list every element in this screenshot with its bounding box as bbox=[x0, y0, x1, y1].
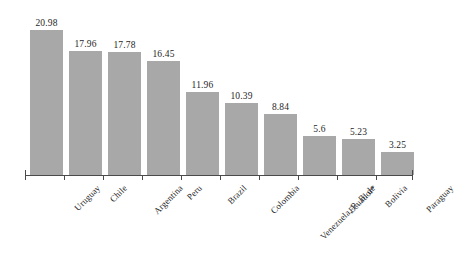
bar[interactable] bbox=[147, 61, 180, 175]
bar-value-label: 17.96 bbox=[69, 39, 102, 50]
bar-value-label: 16.45 bbox=[147, 49, 180, 60]
bar-group: 11.96 bbox=[186, 80, 219, 176]
bar[interactable] bbox=[69, 51, 102, 175]
bar-value-label: 8.84 bbox=[264, 102, 297, 113]
x-axis-tick bbox=[181, 176, 182, 180]
bar[interactable] bbox=[186, 92, 219, 175]
x-axis-category-label: Paraguay bbox=[424, 183, 455, 214]
bar-group: 5.6 bbox=[303, 124, 336, 176]
x-axis-category-label: Peru bbox=[185, 183, 204, 202]
x-axis-tick bbox=[220, 176, 221, 180]
bar-value-label: 3.25 bbox=[381, 140, 414, 151]
bar-value-label: 20.98 bbox=[30, 18, 63, 29]
bar-group: 16.45 bbox=[147, 49, 180, 176]
x-axis-tick bbox=[298, 176, 299, 180]
bar[interactable] bbox=[225, 103, 258, 175]
bar-value-label: 5.6 bbox=[303, 124, 336, 135]
x-axis-tick bbox=[64, 176, 65, 180]
bar-group: 17.96 bbox=[69, 39, 102, 176]
bar-group: 8.84 bbox=[264, 102, 297, 176]
x-axis-tick bbox=[412, 176, 413, 180]
bar-value-label: 17.78 bbox=[108, 40, 141, 51]
plot-area: 20.98 17.96 17.78 16.45 11.96 10.39 8.84 bbox=[0, 0, 438, 176]
bar-value-label: 5.23 bbox=[342, 127, 375, 138]
bar[interactable] bbox=[30, 30, 63, 175]
x-axis-tick bbox=[337, 176, 338, 180]
x-axis-category-label: Chile bbox=[108, 183, 129, 204]
bar-group: 5.23 bbox=[342, 127, 375, 176]
x-axis-category-label: Argentina bbox=[152, 183, 185, 216]
x-axis-tick bbox=[103, 176, 104, 180]
bar[interactable] bbox=[264, 114, 297, 175]
bar-group: 3.25 bbox=[381, 140, 414, 176]
x-axis-tick bbox=[259, 176, 260, 180]
bar-value-label: 10.39 bbox=[225, 91, 258, 102]
x-axis-category-label: Brazil bbox=[226, 183, 249, 206]
bar-value-label: 11.96 bbox=[186, 80, 219, 91]
bar-group: 10.39 bbox=[225, 91, 258, 176]
x-axis-category-label: Uruguay bbox=[72, 183, 102, 213]
x-axis-category-label: Colombia bbox=[269, 183, 302, 216]
x-axis-tick bbox=[376, 176, 377, 180]
bar[interactable] bbox=[303, 136, 336, 175]
x-axis-category-label: Ecuador* bbox=[346, 183, 378, 215]
x-axis-category-label: Bolivia bbox=[383, 183, 409, 209]
x-axis-line bbox=[25, 175, 413, 176]
bar[interactable] bbox=[108, 52, 141, 175]
bar-group: 17.78 bbox=[108, 40, 141, 176]
x-axis-tick bbox=[25, 176, 26, 180]
bar-group: 20.98 bbox=[30, 18, 63, 176]
bar[interactable] bbox=[381, 152, 414, 175]
x-axis-tick bbox=[142, 176, 143, 180]
bar[interactable] bbox=[342, 139, 375, 175]
